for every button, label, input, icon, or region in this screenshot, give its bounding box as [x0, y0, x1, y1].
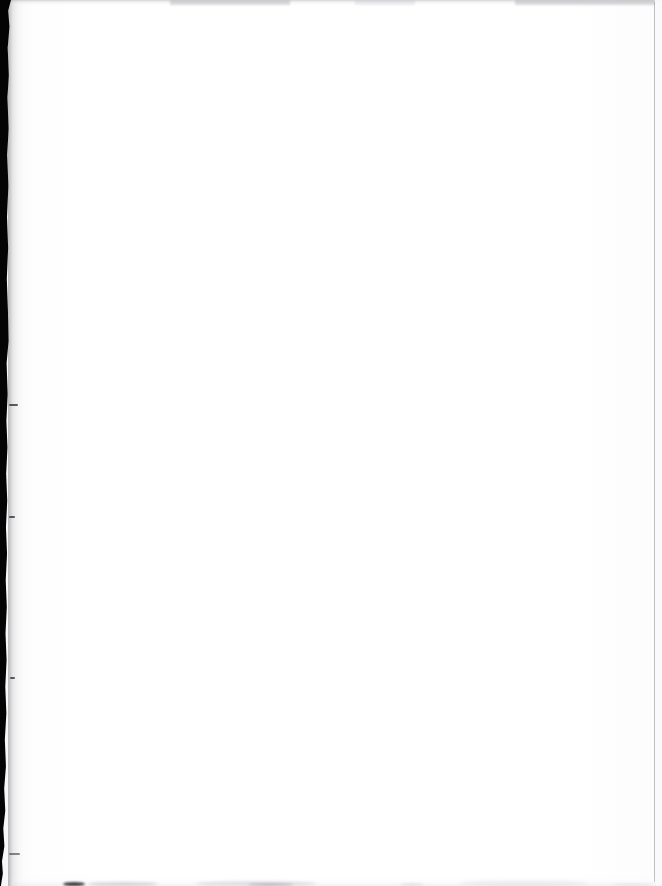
page-content-area — [62, 58, 622, 846]
scanned-page — [0, 0, 662, 886]
